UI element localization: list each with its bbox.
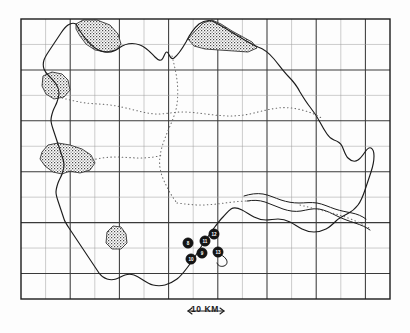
map-figure: 8111291310 10 KM (0, 0, 410, 333)
marker-3[interactable]: 12 (209, 229, 219, 239)
marker-1[interactable]: 8 (183, 238, 193, 248)
grid-minor-horizontal-lines (21, 44, 390, 248)
marker-6-label: 10 (188, 257, 194, 262)
site-markers-group: 8111291310 (183, 229, 223, 264)
internal-dotted-boundaries (62, 56, 369, 228)
marker-1-label: 8 (187, 241, 190, 246)
marker-4[interactable]: 9 (197, 248, 207, 258)
marker-3-label: 12 (211, 232, 217, 237)
marker-5[interactable]: 13 (213, 247, 223, 257)
stipple-region-west-lower (40, 143, 95, 174)
stipple-region-west-upper (42, 72, 70, 99)
coastline-outline (43, 21, 374, 286)
marker-2-label: 11 (203, 239, 208, 244)
marker-5-label: 13 (215, 250, 221, 255)
marker-4-label: 9 (201, 251, 204, 256)
stipple-region-south-central (106, 226, 127, 249)
scalebar-arrow (188, 308, 224, 314)
marker-2[interactable]: 11 (200, 236, 210, 246)
map-canvas: 8111291310 (0, 0, 410, 333)
marker-6[interactable]: 10 (186, 254, 196, 264)
